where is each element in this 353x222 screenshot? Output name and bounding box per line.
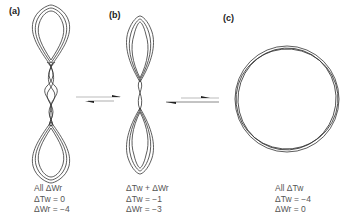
caption-c-line-3: ΔWr = 0 — [275, 204, 311, 215]
caption-b: ΔTw + ΔWr ΔTw = −1 ΔWr = −3 — [126, 183, 169, 215]
caption-c: All ΔTw ΔTw = −4 ΔWr = 0 — [275, 183, 311, 215]
caption-a: All ΔWr ΔTw = 0 ΔWr = −4 — [34, 183, 70, 215]
caption-c-line-1: All ΔTw — [275, 183, 311, 194]
caption-b-line-2: ΔTw = −1 — [126, 194, 169, 205]
caption-a-line-3: ΔWr = −4 — [34, 204, 70, 215]
panel-c-circle — [231, 42, 343, 157]
panel-a-plectoneme — [32, 5, 69, 183]
equilibrium-arrow-a-b — [76, 95, 121, 103]
caption-b-line-1: ΔTw + ΔWr — [126, 183, 169, 194]
panel-b-figure-eight — [127, 16, 154, 174]
panel-label-a: (a) — [9, 6, 20, 16]
caption-c-line-2: ΔTw = −4 — [275, 194, 311, 205]
caption-b-line-3: ΔWr = −3 — [126, 204, 169, 215]
equilibrium-arrow-b-c — [166, 96, 219, 104]
caption-a-line-2: ΔTw = 0 — [34, 194, 70, 205]
panel-label-b: (b) — [109, 10, 121, 20]
caption-a-line-1: All ΔWr — [34, 183, 70, 194]
panel-label-c: (c) — [223, 13, 234, 23]
